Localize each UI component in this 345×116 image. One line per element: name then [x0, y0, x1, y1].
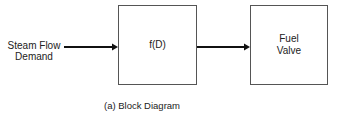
diagram-caption: (a) Block Diagram [104, 100, 180, 111]
output-arrow [197, 44, 250, 51]
input-arrow [64, 44, 118, 51]
connectors [0, 0, 345, 116]
